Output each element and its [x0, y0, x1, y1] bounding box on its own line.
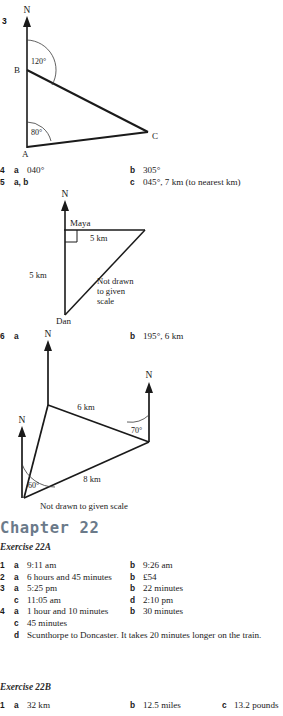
answer-text: £54 [143, 572, 157, 582]
answer-letter: c [14, 595, 19, 605]
exercise-22a-heading: Exercise 22A [0, 542, 51, 552]
answer-letter-4a: a [14, 165, 19, 175]
answer-text: 32 km [27, 700, 50, 710]
answer-number-4: 4 [0, 165, 12, 175]
vertex-label-a: A [22, 149, 29, 159]
label-side-left: 5 km [29, 270, 47, 280]
answer-number: 2 [0, 572, 12, 582]
north-label: N [62, 189, 69, 199]
answer-letter-4b: b [130, 165, 135, 175]
answer-text: 13.2 pounds [234, 700, 278, 710]
table-row: 1 a 9:11 am b 9:26 am [0, 560, 283, 572]
table-row: 4 a 1 hour and 10 minutes b 30 minutes [0, 606, 283, 618]
diagram-question-5: N Maya Dan 5 km 5 km Not drawn to given … [0, 186, 200, 326]
exercise-22a-rows: 1 a 9:11 am b 9:26 am 2 a 6 hours and 45… [0, 560, 283, 654]
answer-text: 2:10 pm [143, 595, 173, 605]
table-row: c 45 minutes [0, 618, 283, 630]
label-side-8km: 8 km [83, 474, 101, 484]
answer-letter: b [130, 560, 135, 570]
angle-label-70: 70° [131, 426, 142, 435]
answer-letter: b [130, 583, 135, 593]
answer-text: 22 minutes [143, 583, 183, 593]
answer-letter: d [130, 595, 135, 605]
exercise-22b-rows: 1 a 32 km b 12.5 miles c 13.2 pounds [0, 700, 283, 712]
table-row: d Scunthorpe to Doncaster. It takes 20 m… [0, 630, 283, 654]
vertex-label-c: C [152, 131, 158, 141]
segment-6km [48, 405, 149, 442]
note-line-1: Not drawn [97, 276, 134, 286]
answer-text: 11:05 am [27, 595, 61, 605]
diagram-question-6: N N N 70° 60° 6 km 8 km Not drawn to giv… [0, 326, 210, 516]
answer-text-4a: 040° [27, 165, 44, 175]
angle-label-120: 120° [31, 57, 46, 66]
north-arrowhead [61, 200, 69, 211]
table-row: 2 a 6 hours and 45 minutes b £54 [0, 572, 283, 584]
label-side-top: 5 km [90, 233, 108, 243]
chapter-heading: Chapter 22 [0, 519, 99, 537]
answer-text: 6 hours and 45 minutes [27, 572, 112, 582]
answer-letter: a [14, 560, 19, 570]
answer-text: 45 minutes [27, 618, 67, 628]
answer-number: 1 [0, 560, 12, 570]
table-row: c 11:05 am d 2:10 pm [0, 595, 283, 607]
answer-book-page: 3 N 120° 80° B A C 4 a 040° b 305° 5 a, … [0, 0, 283, 716]
answer-letter: a [14, 606, 19, 616]
answer-number: 3 [0, 583, 12, 593]
label-maya: Maya [70, 218, 91, 228]
diagram-question-3: N 120° 80° B A C [0, 0, 200, 160]
answer-letter: b [130, 606, 135, 616]
segment-ac [27, 132, 148, 147]
label-side-6km: 6 km [77, 402, 95, 412]
answer-letter: a [14, 572, 19, 582]
answer-row-4: 4 a 040° b 305° [0, 165, 283, 177]
right-angle-icon [65, 230, 77, 242]
note-line-2: to given [97, 286, 126, 296]
north-label: N [24, 5, 31, 15]
angle-label-80: 80° [31, 128, 42, 137]
angle-label-60: 60° [28, 481, 39, 490]
north-arrowhead [23, 16, 31, 27]
answer-letter: c [14, 618, 19, 628]
answer-text: 1 hour and 10 minutes [27, 606, 108, 616]
answer-letter: c [222, 700, 227, 710]
answer-text: 9:26 am [143, 560, 173, 570]
table-row: 3 a 5:25 pm b 22 minutes [0, 583, 283, 595]
label-dan: Dan [56, 316, 71, 326]
answer-number: 4 [0, 606, 12, 616]
segment-8km [24, 442, 149, 498]
answers-4-5: 4 a 040° b 305° 5 a, b c 045°, 7 km (to … [0, 165, 283, 188]
answer-letter: a [14, 583, 19, 593]
north-arrowhead-top [44, 340, 52, 351]
note-line-3: scale [97, 296, 114, 306]
answer-letter: a [14, 700, 19, 710]
vertex-label-b: B [14, 65, 20, 75]
exercise-22b-heading: Exercise 22B [0, 682, 51, 692]
answer-text: 12.5 miles [143, 700, 181, 710]
answer-letter: b [130, 572, 135, 582]
north-arrowhead-bottom [18, 426, 26, 437]
answer-text: 9:11 am [27, 560, 56, 570]
answer-letter: d [14, 630, 19, 640]
answer-text: Scunthorpe to Doncaster. It takes 20 min… [27, 630, 277, 641]
answer-text-4b: 305° [143, 165, 160, 175]
north-arrowhead-right [145, 382, 153, 393]
answer-letter: b [130, 700, 135, 710]
answer-text: 30 minutes [143, 606, 183, 616]
north-label-right: N [146, 370, 153, 380]
table-row: 1 a 32 km b 12.5 miles c 13.2 pounds [0, 700, 283, 712]
segment-bc [27, 70, 148, 132]
answer-text: 5:25 pm [27, 583, 57, 593]
north-label-bottom: N [19, 415, 26, 425]
north-label-top: N [45, 329, 52, 339]
answer-number: 1 [0, 700, 12, 710]
note-not-drawn-to-scale: Not drawn to given scale [40, 501, 128, 511]
angle-arc-70 [127, 415, 149, 422]
